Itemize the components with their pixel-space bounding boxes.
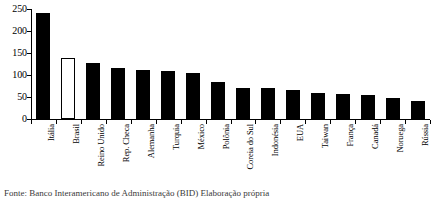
x-axis-category-labels: ItáliaBrasilReino UnidoRep. ChecaAlemanh… xyxy=(31,124,430,180)
x-tick-mark-4 xyxy=(131,120,132,124)
x-tick-label-fran-a: França xyxy=(346,124,355,147)
bar-chart-figure: 050100150200250 ItáliaBrasilReino UnidoR… xyxy=(0,0,434,200)
x-tick-label-taiwan: Taiwan xyxy=(321,124,330,148)
x-tick-mark-14 xyxy=(380,120,381,124)
x-tick-label-coreia-do-sul: Coreia do Sul xyxy=(246,124,255,169)
x-tick-mark-end xyxy=(430,120,431,124)
x-tick-label-alemanha: Alemanha xyxy=(147,124,156,158)
y-axis-tick-labels: 050100150200250 xyxy=(0,0,30,180)
bar-turquia xyxy=(161,71,175,119)
x-tick-mark-0 xyxy=(31,120,32,124)
x-tick-mark-5 xyxy=(156,120,157,124)
y-tick-mark-150 xyxy=(27,53,31,54)
y-tick-label-100: 100 xyxy=(12,70,27,80)
x-tick-mark-15 xyxy=(405,120,406,124)
x-tick-mark-8 xyxy=(231,120,232,124)
y-tick-label-150: 150 xyxy=(12,48,27,58)
plot-area: 050100150200250 ItáliaBrasilReino UnidoR… xyxy=(0,0,434,180)
x-tick-mark-11 xyxy=(305,120,306,124)
x-tick-mark-13 xyxy=(355,120,356,124)
bar-m-xico xyxy=(186,73,200,119)
y-tick-mark-200 xyxy=(27,31,31,32)
x-tick-mark-6 xyxy=(181,120,182,124)
bar-coreia-do-sul xyxy=(236,88,250,119)
y-tick-mark-100 xyxy=(27,75,31,76)
bar-reino-unido xyxy=(86,63,100,119)
x-tick-label-indon-sia: Indonésia xyxy=(271,124,280,156)
bar-fran-a xyxy=(336,94,350,119)
y-tick-label-50: 50 xyxy=(17,92,27,102)
x-tick-label-brasil: Brasil xyxy=(72,124,81,144)
y-tick-mark-50 xyxy=(27,97,31,98)
x-tick-mark-3 xyxy=(106,120,107,124)
x-tick-mark-10 xyxy=(280,120,281,124)
x-tick-mark-9 xyxy=(255,120,256,124)
bar-indon-sia xyxy=(261,88,275,119)
figure-caption: Fonte: Banco Interamericano de Administr… xyxy=(4,188,430,199)
x-tick-label-rep-checa: Rep. Checa xyxy=(122,124,131,162)
x-tick-mark-12 xyxy=(330,120,331,124)
bar-eua xyxy=(286,90,300,119)
y-tick-label-250: 250 xyxy=(12,4,27,14)
bar-pol-nia xyxy=(211,82,225,119)
bar-brasil xyxy=(61,58,75,119)
x-tick-label-noruega: Noruega xyxy=(396,124,405,153)
bar-rep-checa xyxy=(111,68,125,119)
x-tick-label-r-ssia: Rússia xyxy=(421,124,430,146)
x-tick-label-eua: EUA xyxy=(296,124,305,141)
x-tick-label-it-lia: Itália xyxy=(47,124,56,141)
bar-r-ssia xyxy=(411,101,425,119)
x-tick-mark-2 xyxy=(81,120,82,124)
x-tick-mark-7 xyxy=(206,120,207,124)
bar-noruega xyxy=(386,98,400,119)
x-tick-label-reino-unido: Reino Unido xyxy=(97,124,106,167)
x-tick-mark-1 xyxy=(56,120,57,124)
y-tick-label-200: 200 xyxy=(12,26,27,36)
bar-alemanha xyxy=(136,70,150,119)
x-tick-label-turquia: Turquia xyxy=(172,124,181,150)
bar-taiwan xyxy=(311,93,325,119)
x-tick-label-m-xico: México xyxy=(197,124,206,149)
bar-canad- xyxy=(361,95,375,119)
bar-it-lia xyxy=(36,13,50,119)
x-tick-label-pol-nia: Polônia xyxy=(222,124,231,149)
y-tick-mark-250 xyxy=(27,9,31,10)
x-tick-label-canad-: Canadá xyxy=(371,124,380,149)
bar-series xyxy=(31,9,430,119)
